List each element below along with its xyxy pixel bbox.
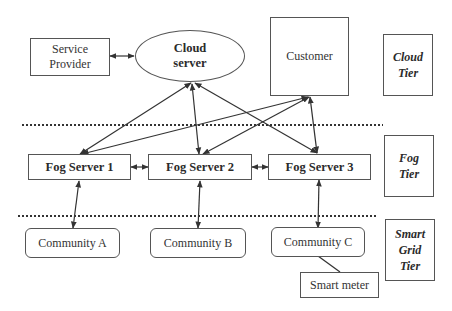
fog-server-1-label: Fog Server 1	[46, 160, 114, 175]
service-provider-label-line1: Service	[52, 42, 88, 57]
fog-tier-label-box: Fog Tier	[384, 135, 434, 197]
fog-server-1-node: Fog Server 1	[28, 154, 131, 180]
service-provider-label-line2: Provider	[49, 57, 90, 72]
fog-tier-line1: Fog	[399, 150, 419, 166]
community-b-node: Community B	[150, 228, 246, 258]
cloud-tier-line1: Cloud	[393, 49, 423, 65]
cloud-tier-line2: Tier	[398, 65, 418, 81]
customer-label: Customer	[286, 49, 333, 64]
cloud-server-label-line2: server	[173, 56, 206, 71]
smart-grid-tier-line3: Tier	[400, 258, 420, 274]
cloud-tier-label-box: Cloud Tier	[383, 34, 433, 96]
fog-computing-architecture-diagram: Service Provider Cloud server Customer F…	[0, 0, 452, 311]
community-a-node: Community A	[25, 228, 120, 258]
cloud-server-node: Cloud server	[135, 30, 245, 82]
community-b-label: Community B	[164, 236, 232, 251]
service-provider-node: Service Provider	[30, 38, 110, 76]
community-c-node: Community C	[271, 227, 365, 257]
fog-server-2-node: Fog Server 2	[148, 154, 252, 180]
customer-node: Customer	[270, 17, 349, 96]
edge-cloud-fog2	[192, 84, 199, 154]
edge-fog2-community-b	[198, 181, 200, 228]
community-a-label: Community A	[38, 236, 106, 251]
smart-meter-label: Smart meter	[310, 278, 369, 293]
fog-server-3-label: Fog Server 3	[286, 160, 354, 175]
edge-community-c-smart-meter	[318, 256, 340, 272]
edge-cloud-fog1	[80, 83, 191, 154]
fog-server-2-label: Fog Server 2	[166, 160, 234, 175]
fog-server-3-node: Fog Server 3	[268, 154, 371, 180]
smart-grid-tier-line2: Grid	[399, 242, 422, 258]
community-c-label: Community C	[284, 235, 352, 250]
cloud-server-label-line1: Cloud	[174, 41, 207, 56]
smart-grid-tier-label-box: Smart Grid Tier	[385, 219, 435, 281]
fog-tier-line2: Tier	[399, 166, 419, 182]
smart-grid-tier-line1: Smart	[395, 226, 425, 242]
edge-fog1-community-a	[73, 181, 79, 228]
edge-fog3-community-c	[318, 180, 319, 228]
smart-meter-node: Smart meter	[300, 272, 379, 298]
